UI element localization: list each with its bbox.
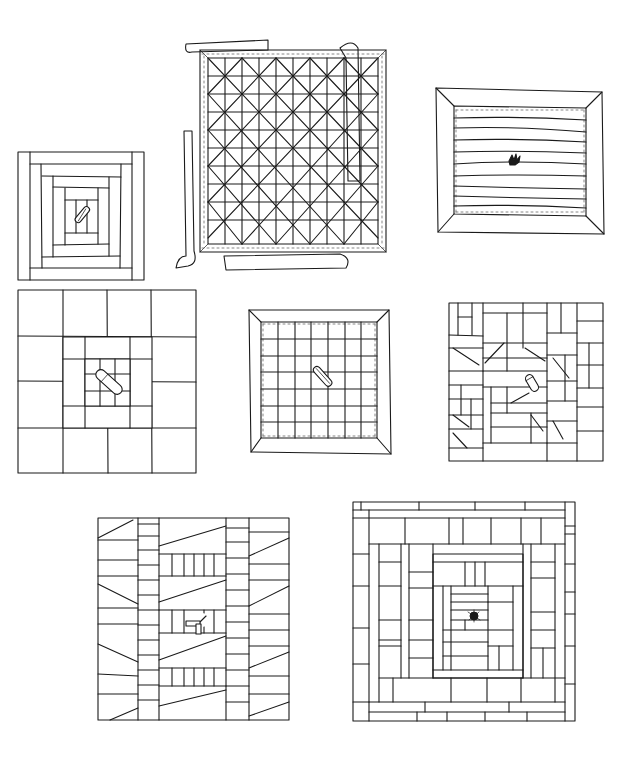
quilt-block-improv-log-cabin: Improvised log cabin with tie tuft [353,502,579,724]
quilt-block-horizontal-lines: Horizontal quilted lines with mitered bo… [436,88,616,236]
safety-pin-icon [312,365,333,388]
ribbon-icon [186,613,209,634]
tie-tuft-icon [509,154,520,165]
quilt-block-diagonal-grid: Diagonal grid quilted block with binding… [180,36,420,276]
diagonal-grid-drawing [180,36,420,276]
quilt-block-crazy-strip: Crazy strip-pieced block with safety pin [449,303,605,463]
quilt-block-rail-ribbon: Strip block with ladder columns and ribb… [98,518,292,724]
log-cabin-drawing [18,152,146,282]
quilt-block-log-cabin: Log cabin block with safety pin [18,152,146,282]
safety-pin-icon [524,373,540,393]
quilt-block-grid-mitered: Grid quilted block with mitered border a… [249,310,394,455]
rail-ribbon-drawing [98,518,292,724]
crazy-strip-drawing [449,303,605,463]
improv-log-cabin-drawing [353,502,579,724]
quilting-grid [208,58,378,244]
grid-mitered-drawing [249,310,394,455]
quilt-block-four-by-four: Four-by-four grid with concentric centre… [18,290,198,476]
horizontal-lines-drawing [436,88,616,236]
four-by-four-drawing [18,290,198,476]
